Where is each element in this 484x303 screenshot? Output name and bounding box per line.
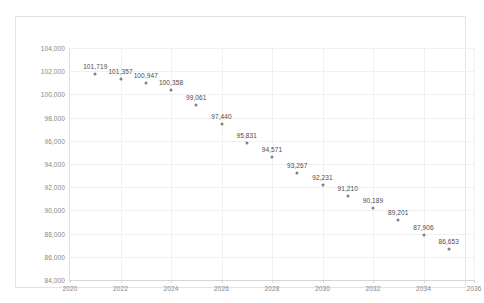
- x-gridline: [373, 48, 374, 280]
- x-gridline: [474, 48, 475, 280]
- x-gridline: [272, 48, 273, 280]
- data-point-marker[interactable]: [271, 156, 274, 159]
- x-axis-tick-label: 2024: [164, 285, 179, 292]
- x-axis-tick-mark: [424, 280, 425, 283]
- data-point-label: 90,189: [363, 197, 383, 204]
- y-axis-tick-label: 102,000: [41, 68, 65, 75]
- chart-container[interactable]: 84,00086,00088,00090,00092,00094,00096,0…: [15, 16, 466, 288]
- data-point-marker[interactable]: [220, 123, 223, 126]
- y-axis-tick-label: 84,000: [45, 277, 65, 284]
- y-axis-tick-label: 94,000: [45, 161, 65, 168]
- x-gridline: [121, 48, 122, 280]
- x-axis-tick-label: 2030: [315, 285, 330, 292]
- cropped-title-text: ——— ————— ——— ———— ——— ——: [88, 0, 291, 4]
- y-axis-tick-label: 96,000: [45, 137, 65, 144]
- data-point-label: 100,358: [159, 79, 183, 86]
- x-gridline: [323, 48, 324, 280]
- data-point-marker[interactable]: [195, 104, 198, 107]
- x-gridline: [222, 48, 223, 280]
- x-axis-tick-mark: [121, 280, 122, 283]
- x-axis-tick-mark: [474, 280, 475, 283]
- x-axis-tick-mark: [222, 280, 223, 283]
- data-point-marker[interactable]: [144, 82, 147, 85]
- x-axis-tick-label: 2022: [113, 285, 128, 292]
- data-point-label: 89,201: [388, 209, 408, 216]
- data-point-label: 92,231: [312, 174, 332, 181]
- x-axis-tick-mark: [70, 280, 71, 283]
- y-axis-tick-label: 88,000: [45, 230, 65, 237]
- x-axis-tick-label: 2036: [467, 285, 482, 292]
- data-point-marker[interactable]: [372, 207, 375, 210]
- data-point-marker[interactable]: [296, 171, 299, 174]
- data-point-marker[interactable]: [447, 248, 450, 251]
- x-axis-tick-label: 2032: [366, 285, 381, 292]
- data-point-label: 93,267: [287, 162, 307, 169]
- x-axis-tick-mark: [323, 280, 324, 283]
- data-point-label: 91,210: [338, 185, 358, 192]
- x-gridline: [424, 48, 425, 280]
- x-axis-tick-label: 2034: [416, 285, 431, 292]
- data-point-label: 101,719: [83, 63, 107, 70]
- y-axis-tick-label: 104,000: [41, 45, 65, 52]
- x-axis-tick-mark: [373, 280, 374, 283]
- data-point-marker[interactable]: [346, 195, 349, 198]
- data-point-marker[interactable]: [170, 89, 173, 92]
- data-point-label: 99,061: [186, 94, 206, 101]
- data-point-marker[interactable]: [245, 141, 248, 144]
- y-axis-tick-label: 92,000: [45, 184, 65, 191]
- data-point-marker[interactable]: [397, 218, 400, 221]
- data-point-marker[interactable]: [94, 73, 97, 76]
- x-axis-tick-label: 2026: [214, 285, 229, 292]
- data-point-marker[interactable]: [119, 77, 122, 80]
- cropped-title-strip: ——— ————— ——— ———— ——— ——: [0, 0, 484, 10]
- data-point-label: 101,357: [108, 68, 132, 75]
- data-point-label: 86,653: [439, 238, 459, 245]
- data-point-label: 95,831: [237, 132, 257, 139]
- screenshot-root: ——— ————— ——— ———— ——— —— 84,00086,00088…: [0, 0, 484, 303]
- x-axis-tick-label: 2028: [265, 285, 280, 292]
- data-point-label: 97,440: [211, 113, 231, 120]
- data-point-label: 100,947: [134, 72, 158, 79]
- data-point-label: 87,906: [413, 224, 433, 231]
- x-axis-tick-mark: [272, 280, 273, 283]
- data-point-marker[interactable]: [422, 233, 425, 236]
- y-axis-tick-label: 86,000: [45, 253, 65, 260]
- data-point-label: 94,571: [262, 146, 282, 153]
- x-axis-tick-mark: [171, 280, 172, 283]
- data-point-marker[interactable]: [321, 183, 324, 186]
- y-axis-tick-label: 98,000: [45, 114, 65, 121]
- y-axis-tick-label: 90,000: [45, 207, 65, 214]
- scatter-plot-area: 84,00086,00088,00090,00092,00094,00096,0…: [69, 48, 474, 281]
- x-axis-tick-label: 2020: [63, 285, 78, 292]
- y-axis-tick-label: 100,000: [41, 91, 65, 98]
